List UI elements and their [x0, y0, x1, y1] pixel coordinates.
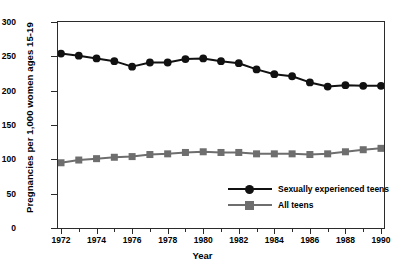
data-point-marker — [342, 148, 349, 155]
chart-title — [0, 0, 405, 5]
data-point-marker — [146, 59, 154, 67]
legend-label: Sexually experienced teens — [278, 184, 389, 194]
data-point-marker — [110, 57, 118, 65]
data-point-marker — [58, 50, 65, 58]
x-tick-mark-minor — [150, 229, 151, 232]
data-point-marker — [129, 153, 136, 160]
x-tick-mark-minor — [292, 229, 293, 232]
data-point-marker — [182, 149, 189, 156]
x-tick-label: 1974 — [87, 235, 106, 245]
chart-figure: Pregnancies per 1,000 women ages 15-19 0… — [0, 0, 405, 271]
data-point-marker — [253, 65, 261, 73]
x-tick-mark-major — [203, 229, 204, 234]
data-point-marker — [306, 79, 314, 87]
data-point-marker — [93, 54, 101, 62]
y-tick-label: 200 — [0, 86, 16, 96]
legend-square-icon — [245, 201, 254, 210]
x-tick-mark-minor — [363, 229, 364, 232]
data-point-marker — [288, 72, 296, 80]
data-point-marker — [128, 63, 136, 71]
x-tick-label: 1986 — [300, 235, 319, 245]
data-point-marker — [378, 145, 385, 152]
y-tick-label: 0 — [0, 223, 16, 233]
x-tick-mark-major — [132, 229, 133, 234]
x-tick-mark-major — [274, 229, 275, 234]
x-tick-label: 1972 — [52, 235, 71, 245]
x-tick-mark-major — [345, 229, 346, 234]
x-tick-mark-major — [310, 229, 311, 234]
data-point-marker — [360, 146, 367, 153]
x-axis-title: Year — [0, 250, 405, 261]
legend-item: All teens — [228, 197, 389, 213]
x-tick-mark-minor — [79, 229, 80, 232]
x-tick-mark-major — [97, 229, 98, 234]
x-tick-label: 1982 — [229, 235, 248, 245]
data-point-marker — [324, 150, 331, 157]
data-point-marker — [359, 82, 367, 90]
data-point-marker — [199, 54, 207, 62]
data-point-marker — [218, 149, 225, 156]
legend-circle-icon — [245, 185, 254, 194]
data-point-marker — [146, 151, 153, 158]
data-point-marker — [200, 148, 207, 155]
y-tick-label: 150 — [0, 120, 16, 130]
data-point-marker — [182, 55, 190, 63]
data-point-marker — [253, 150, 260, 157]
data-point-marker — [111, 154, 118, 161]
data-point-marker — [75, 52, 83, 60]
x-tick-mark-minor — [114, 229, 115, 232]
chart-legend: Sexually experienced teensAll teens — [228, 181, 389, 213]
y-axis-title: Pregnancies per 1,000 women ages 15-19 — [24, 3, 35, 233]
data-point-marker — [164, 59, 172, 67]
data-point-marker — [271, 150, 278, 157]
x-tick-mark-major — [381, 229, 382, 234]
x-tick-mark-minor — [328, 229, 329, 232]
data-point-marker — [235, 149, 242, 156]
x-tick-label: 1976 — [123, 235, 142, 245]
data-point-marker — [164, 150, 171, 157]
y-tick-label: 250 — [0, 51, 16, 61]
data-point-marker — [75, 157, 82, 164]
data-point-marker — [324, 83, 332, 91]
x-tick-mark-minor — [221, 229, 222, 232]
series-1 — [58, 50, 384, 91]
x-tick-mark-minor — [257, 229, 258, 232]
x-tick-label: 1990 — [372, 235, 391, 245]
x-tick-label: 1978 — [158, 235, 177, 245]
x-tick-label: 1984 — [265, 235, 284, 245]
data-point-marker — [217, 57, 225, 65]
x-tick-mark-minor — [185, 229, 186, 232]
data-point-marker — [270, 70, 278, 78]
x-tick-mark-major — [239, 229, 240, 234]
data-point-marker — [377, 82, 384, 90]
data-point-marker — [342, 81, 350, 89]
data-point-marker — [289, 150, 296, 157]
x-tick-label: 1988 — [336, 235, 355, 245]
x-tick-mark-major — [61, 229, 62, 234]
legend-label: All teens — [278, 200, 313, 210]
x-tick-label: 1980 — [194, 235, 213, 245]
data-point-marker — [93, 155, 100, 162]
y-tick-label: 300 — [0, 17, 16, 27]
legend-marker — [228, 199, 272, 211]
data-point-marker — [58, 159, 65, 166]
series-2 — [58, 145, 384, 166]
data-point-marker — [306, 151, 313, 158]
legend-item: Sexually experienced teens — [228, 181, 389, 197]
y-tick-label: 100 — [0, 154, 16, 164]
y-tick-label: 50 — [0, 189, 16, 199]
x-tick-mark-major — [168, 229, 169, 234]
data-point-marker — [235, 59, 243, 67]
legend-marker — [228, 183, 272, 195]
